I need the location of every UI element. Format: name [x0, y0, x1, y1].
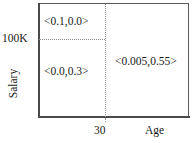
x-axis-tick-label-30: 30: [94, 124, 106, 137]
partition-diagram: <0.1,0.0> <0.0,0.3> <0.005,0.55> 100K 30…: [0, 0, 195, 143]
y-axis-line: [38, 3, 40, 118]
x-axis-line: [38, 116, 190, 118]
vertical-split-line-age-30: [105, 4, 106, 117]
region-label-top-left: <0.1,0.0>: [44, 15, 89, 28]
x-axis-title: Age: [145, 124, 164, 137]
horizontal-split-line-salary-100k: [39, 39, 105, 40]
y-axis-tick-label-100k: 100K: [2, 32, 28, 45]
y-axis-title: Salary: [7, 62, 20, 106]
region-label-right: <0.005,0.55>: [115, 55, 177, 68]
region-label-bottom-left: <0.0,0.3>: [44, 65, 89, 78]
x-axis-tick-mark-30: [105, 118, 106, 122]
